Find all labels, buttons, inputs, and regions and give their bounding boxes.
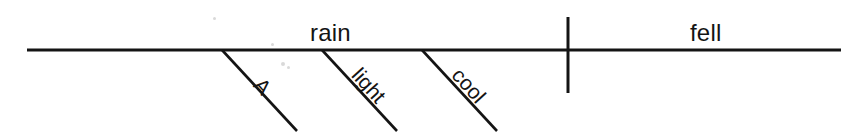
scan-speck bbox=[287, 66, 290, 69]
verb-word-fell: fell bbox=[690, 21, 721, 45]
scan-speck bbox=[271, 43, 274, 46]
scan-speck bbox=[281, 62, 285, 66]
subject-word-rain: rain bbox=[310, 21, 351, 45]
diagram-lines bbox=[0, 0, 864, 140]
scan-speck bbox=[213, 17, 216, 20]
sentence-diagram-figure: rain fell A light cool bbox=[0, 0, 864, 140]
